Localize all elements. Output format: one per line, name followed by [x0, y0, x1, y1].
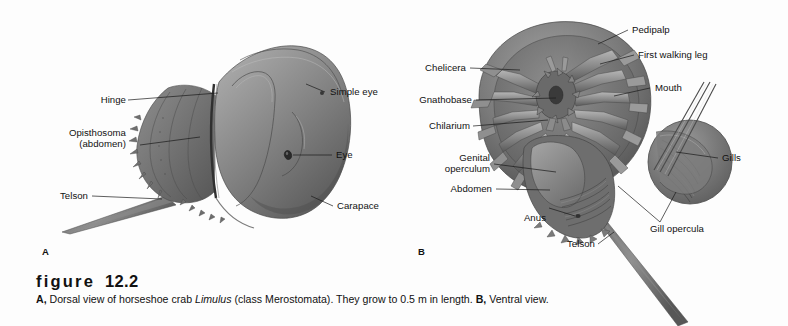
panel-a-marker: A [42, 246, 49, 257]
label-opisthosoma: Opisthosoma (abdomen) [22, 128, 126, 149]
label-telson-dorsal: Telson [32, 191, 88, 202]
panel-b-marker: B [418, 246, 425, 257]
figure-caption-block: figure12.2 A, Dorsal view of horseshoe c… [36, 272, 736, 306]
label-abdomen: Abdomen [418, 184, 492, 195]
figure-number-heading: figure12.2 [36, 272, 736, 291]
label-anus: Anus [506, 213, 546, 224]
label-genital-operculum: Genital operculum [420, 153, 490, 174]
label-chilarium: Chilarium [396, 121, 470, 132]
caption-a-text-2: (class Merostomata). They grow to 0.5 m … [232, 293, 476, 305]
figure-word: figure [36, 272, 95, 290]
caption-a-marker: A, [36, 293, 47, 305]
label-carapace: Carapace [337, 201, 379, 212]
label-gnathobase: Gnathobase [388, 95, 472, 106]
label-chelicera: Chelicera [398, 63, 466, 74]
anus-opening [575, 214, 580, 218]
label-first-walking-leg: First walking leg [638, 50, 708, 61]
figure-container: Hinge Opisthosoma (abdomen) Telson Simpl… [0, 0, 788, 326]
label-telson-ventral: Telson [557, 239, 595, 250]
compound-eye-glint [286, 152, 288, 155]
caption-a-text-1: Dorsal view of horseshoe crab [47, 293, 195, 305]
label-gill-opercula: Gill opercula [650, 224, 704, 235]
label-gills: Gills [722, 153, 741, 164]
label-pedipalp: Pedipalp [632, 25, 670, 36]
label-hinge: Hinge [50, 95, 126, 106]
label-eye: Eye [336, 150, 353, 161]
caption-b-text: Ventral view. [486, 293, 548, 305]
figure-caption-text: A, Dorsal view of horseshoe crab Limulus… [36, 293, 736, 306]
label-mouth: Mouth [655, 83, 682, 94]
caption-species-name: Limulus [195, 293, 232, 305]
telson-highlight [72, 197, 173, 232]
mouth-opening [549, 86, 563, 104]
label-simple-eye: Simple eye [330, 87, 378, 98]
figure-number: 12.2 [105, 272, 138, 290]
caption-b-marker: B, [476, 293, 487, 305]
